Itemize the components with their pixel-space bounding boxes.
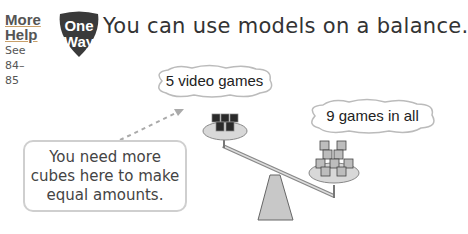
hint-note-box: You need more cubes here to make equal a… xyxy=(23,140,187,212)
right-label-cloud: 9 games in all xyxy=(305,98,440,134)
note-line3: equal amounts. xyxy=(25,186,185,205)
dotted-arrow-icon xyxy=(120,112,178,140)
note-line1: You need more xyxy=(25,148,185,167)
left-label-text: 5 video games xyxy=(152,72,277,89)
left-label-cloud: 5 video games xyxy=(152,64,277,98)
fulcrum-icon xyxy=(258,175,293,220)
note-line2: cubes here to make xyxy=(25,167,185,186)
right-label-text: 9 games in all xyxy=(305,107,440,124)
left-pan-icon xyxy=(203,122,247,140)
